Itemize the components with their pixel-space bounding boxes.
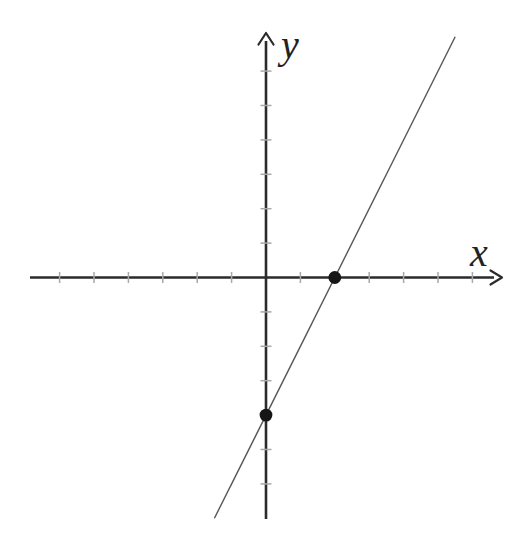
- graph-figure: y x: [0, 0, 527, 550]
- x-axis-label: x: [469, 230, 488, 275]
- point-marker: [328, 271, 341, 284]
- y-axis-label: y: [277, 22, 299, 67]
- plot-area: [30, 33, 502, 519]
- graph-canvas: y x: [0, 0, 527, 550]
- point-marker: [260, 409, 273, 422]
